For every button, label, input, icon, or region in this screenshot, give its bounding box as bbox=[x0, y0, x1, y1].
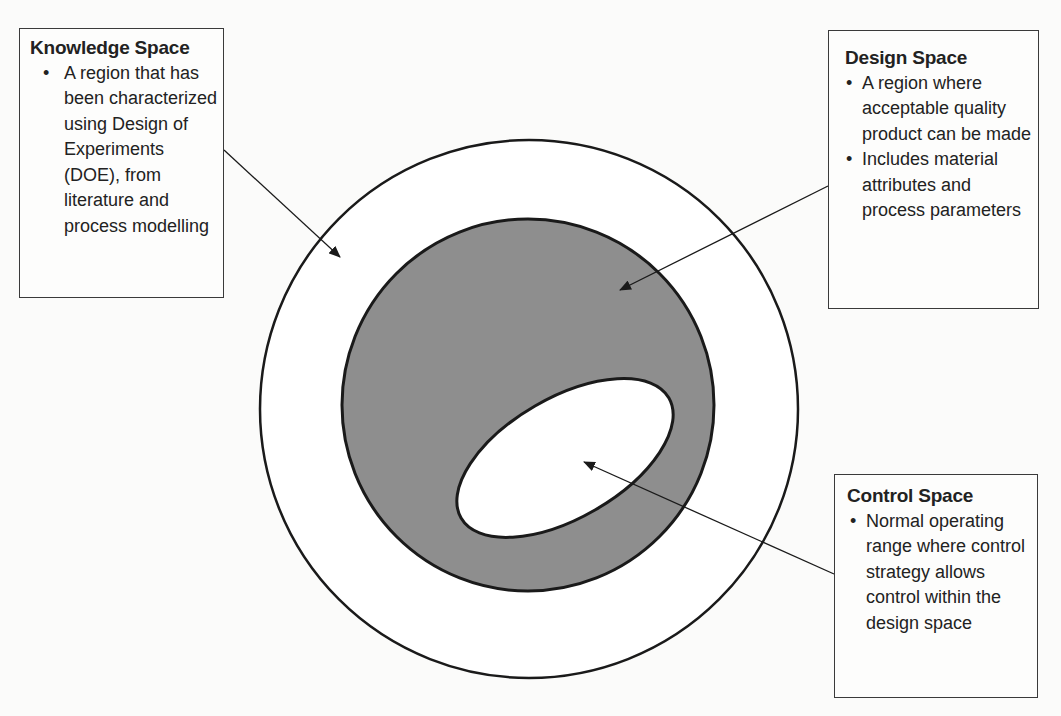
control-space-callout: Control Space Normal operating range whe… bbox=[834, 474, 1038, 698]
knowledge-arrow bbox=[224, 150, 340, 257]
design-space-bullets: A region where acceptable quality produc… bbox=[845, 71, 1038, 224]
bullet-item: Includes material attributes and process… bbox=[845, 147, 1038, 224]
control-space-title: Control Space bbox=[847, 483, 1037, 509]
knowledge-space-title: Knowledge Space bbox=[30, 35, 223, 61]
bullet-item: Normal operating range where control str… bbox=[847, 509, 1037, 637]
bullet-item: A region that has been characterized usi… bbox=[30, 61, 223, 240]
bullet-item: A region where acceptable quality produc… bbox=[845, 71, 1038, 148]
knowledge-space-bullets: A region that has been characterized usi… bbox=[30, 61, 223, 240]
design-space-callout: Design Space A region where acceptable q… bbox=[828, 30, 1039, 309]
knowledge-space-callout: Knowledge Space A region that has been c… bbox=[19, 28, 224, 298]
design-space-title: Design Space bbox=[845, 45, 1038, 71]
control-space-bullets: Normal operating range where control str… bbox=[847, 509, 1037, 637]
